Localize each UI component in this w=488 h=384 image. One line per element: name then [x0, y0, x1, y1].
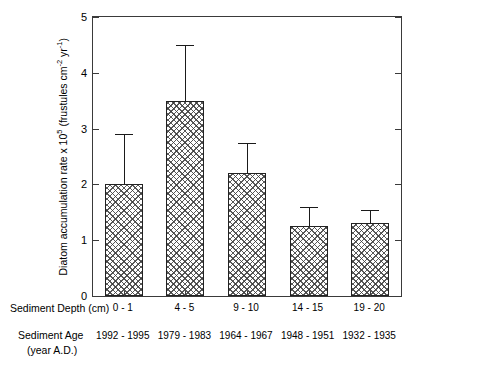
y-axis-title-unit-open: (frustules cm: [57, 67, 69, 130]
y-axis-title-exponent-minus2: -2: [55, 60, 64, 67]
error-bar-cap: [176, 45, 194, 46]
sediment-age-row-sublabel: (year A.D.): [27, 344, 77, 356]
bar: [228, 173, 266, 296]
sediment-depth-row-label: Sediment Depth (cm): [10, 302, 109, 314]
error-bar: [124, 134, 125, 184]
y-axis-tick: [93, 184, 99, 185]
y-axis-tick-right: [395, 73, 401, 74]
x-axis-category-label: 9 - 10: [233, 302, 259, 313]
x-axis-tick: [309, 291, 310, 296]
x-axis-secondary-label: 1992 - 1995: [96, 330, 149, 341]
x-axis-secondary-label: 1964 - 1967: [219, 330, 272, 341]
error-bar-cap: [115, 134, 133, 135]
y-axis-tick: [93, 73, 99, 74]
y-axis-tick-label: 3: [81, 123, 87, 134]
x-axis-tick: [124, 291, 125, 296]
y-axis-title: Diatom accumulation rate x 105 (frustule…: [55, 12, 69, 302]
x-axis-secondary-label: 1979 - 1983: [158, 330, 211, 341]
error-bar-cap: [300, 207, 318, 208]
x-axis-category-label: 4 - 5: [174, 302, 194, 313]
x-axis-category-label: 19 - 20: [354, 302, 385, 313]
error-bar: [309, 207, 310, 227]
y-axis-tick-label: 0: [81, 291, 87, 302]
bar: [351, 223, 389, 296]
x-axis-secondary-label: 1932 - 1935: [342, 330, 395, 341]
x-axis-tick: [370, 291, 371, 296]
y-axis-tick-right: [395, 129, 401, 130]
bar: [290, 226, 328, 296]
y-axis-title-main: Diatom accumulation rate x 10: [57, 134, 69, 276]
sediment-age-row-label: Sediment Age: [18, 329, 83, 341]
error-bar: [247, 143, 248, 174]
error-bar: [370, 210, 371, 224]
error-bar: [185, 45, 186, 101]
y-axis-tick: [93, 17, 99, 18]
y-axis-tick-right: [395, 296, 401, 297]
y-axis-title-exponent-minus1: -1: [55, 41, 64, 48]
error-bar-cap: [361, 210, 379, 211]
x-axis-tick: [185, 291, 186, 296]
y-axis-title-unit-close: ): [57, 38, 69, 42]
y-axis-tick: [93, 240, 99, 241]
y-axis-tick-label: 5: [81, 12, 87, 23]
chart-figure: Diatom accumulation rate x 105 (frustule…: [0, 0, 488, 384]
x-axis-category-label: 14 - 15: [292, 302, 323, 313]
y-axis-tick-right: [395, 184, 401, 185]
y-axis-title-exponent-5: 5: [55, 130, 64, 134]
x-axis-category-label: 0 - 1: [113, 302, 133, 313]
bar: [166, 101, 204, 296]
y-axis-tick: [93, 129, 99, 130]
y-axis-tick-label: 2: [81, 179, 87, 190]
x-axis-secondary-label: 1948 - 1951: [281, 330, 334, 341]
y-axis-tick-label: 1: [81, 235, 87, 246]
y-axis-title-unit-mid: yr: [57, 48, 69, 60]
bar: [105, 184, 143, 296]
y-axis-tick-right: [395, 17, 401, 18]
y-axis-tick-label: 4: [81, 67, 87, 78]
error-bar-cap: [238, 143, 256, 144]
y-axis-tick-right: [395, 240, 401, 241]
y-axis-tick: [93, 296, 99, 297]
x-axis-tick: [247, 291, 248, 296]
plot-area: 012345: [92, 16, 402, 297]
